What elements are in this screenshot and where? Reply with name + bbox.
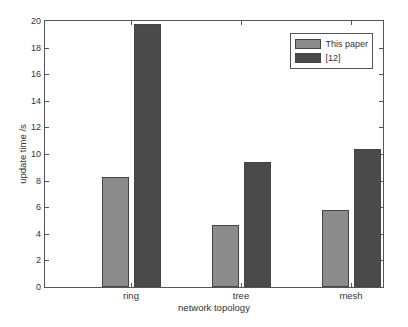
- x-tick-label: ring: [123, 290, 139, 301]
- x-tick-mark: [241, 283, 242, 287]
- plot-area: This paper [12] 02468101214161820ringtre…: [44, 20, 384, 288]
- y-tick-mark: [45, 207, 49, 208]
- legend-swatch: [295, 53, 321, 63]
- y-tick-label: 16: [5, 69, 45, 79]
- bar-ring-this-paper: [102, 177, 129, 287]
- x-tick-mark: [131, 283, 132, 287]
- x-tick-mark: [351, 21, 352, 25]
- legend-label: [12]: [325, 53, 340, 63]
- y-tick-mark: [45, 234, 49, 235]
- y-tick-label: 6: [5, 202, 45, 212]
- y-tick-label: 2: [5, 255, 45, 265]
- y-tick-label: 20: [5, 16, 45, 26]
- y-tick-mark: [45, 260, 49, 261]
- legend-item-ref12: [12]: [295, 51, 368, 65]
- y-tick-label: 18: [5, 43, 45, 53]
- bar-tree-ref12: [244, 162, 271, 287]
- y-tick-mark: [379, 48, 383, 49]
- x-tick-mark: [351, 283, 352, 287]
- y-tick-mark: [379, 74, 383, 75]
- x-axis-label: network topology: [44, 302, 384, 313]
- y-tick-mark: [379, 127, 383, 128]
- bar-ring-ref12: [134, 24, 161, 287]
- legend-swatch: [295, 39, 321, 49]
- y-tick-mark: [45, 101, 49, 102]
- y-tick-label: 4: [5, 229, 45, 239]
- y-tick-mark: [45, 127, 49, 128]
- legend-label: This paper: [325, 39, 368, 49]
- legend-item-this-paper: This paper: [295, 37, 368, 51]
- y-tick-label: 0: [5, 282, 45, 292]
- x-tick-mark: [131, 21, 132, 25]
- y-axis-label: update time /s: [17, 124, 28, 184]
- y-tick-mark: [45, 181, 49, 182]
- bar-tree-this-paper: [212, 225, 239, 288]
- y-tick-mark: [45, 154, 49, 155]
- bar-mesh-ref12: [354, 149, 381, 287]
- y-tick-mark: [379, 101, 383, 102]
- x-tick-mark: [241, 21, 242, 25]
- bar-mesh-this-paper: [322, 210, 349, 287]
- y-tick-mark: [45, 74, 49, 75]
- x-tick-label: tree: [233, 290, 249, 301]
- y-tick-label: 14: [5, 96, 45, 106]
- x-tick-label: mesh: [339, 290, 362, 301]
- y-tick-mark: [45, 48, 49, 49]
- legend: This paper [12]: [290, 33, 373, 69]
